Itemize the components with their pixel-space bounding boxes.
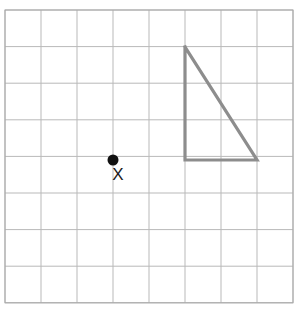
point-x-label: X [112, 165, 123, 184]
figure-root: X [0, 0, 300, 318]
point-x-dot [108, 155, 119, 166]
grid-figure-svg: X [0, 0, 300, 318]
